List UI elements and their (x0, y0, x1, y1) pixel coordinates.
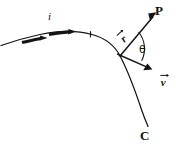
label-current-i: i (48, 11, 51, 22)
label-curve-c: C (140, 129, 149, 142)
current-marker-1-icon (22, 38, 41, 42)
diagram-canvas (0, 0, 176, 148)
vector-arrow-overbar-v-icon (160, 72, 169, 77)
label-point-p: P (155, 4, 163, 17)
label-vector-v: v (161, 77, 166, 88)
label-vector-v-text: v (161, 76, 166, 88)
curve-path-c (1, 31, 148, 126)
current-marker-2-arrowhead-icon (68, 29, 76, 34)
physics-vector-diagram: P C i θ r v (0, 0, 176, 148)
current-marker-1-arrowhead-icon (40, 35, 48, 40)
label-angle-theta: θ (139, 44, 146, 55)
